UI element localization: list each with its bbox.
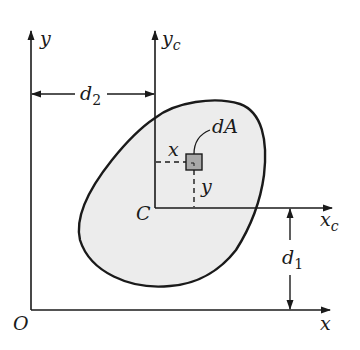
dA-label: dA: [212, 115, 238, 137]
centroid-label: C: [136, 202, 151, 224]
origin-label: O: [13, 312, 29, 334]
xc-axis-label: xc: [320, 208, 339, 234]
diagram-canvas: y x O yc xc C d2 d1 dA x y: [0, 0, 360, 350]
element-y-label: y: [200, 175, 212, 197]
area-element-dA: [186, 154, 202, 170]
element-x-label: x: [168, 138, 179, 160]
d1-label: d1: [282, 246, 303, 272]
y-axis-label: y: [39, 27, 51, 49]
yc-axis-label: yc: [161, 27, 181, 53]
d2-label: d2: [80, 82, 101, 108]
x-axis-label: x: [320, 312, 331, 334]
